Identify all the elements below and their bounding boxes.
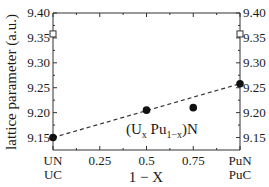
data-point-square xyxy=(50,31,56,37)
x-tick-label: 0.25 xyxy=(88,153,111,168)
data-point-square xyxy=(237,31,243,37)
axis-tick-labels: 9.159.159.209.209.259.259.309.309.359.35… xyxy=(27,5,266,182)
y-tick-label-right: 9.40 xyxy=(243,5,266,20)
x-tick-label: 0.5 xyxy=(138,153,154,168)
x-tick-label: PuC xyxy=(229,167,251,182)
compound-annotation: (Ux Pu1−x)N xyxy=(126,121,198,140)
y-tick-label-left: 9.30 xyxy=(27,55,50,70)
lattice-parameter-chart: lattice parameter (a.u.) 9.159.159.209.2… xyxy=(0,0,269,187)
x-tick-label: UC xyxy=(44,167,62,182)
x-tick-label: UN xyxy=(44,153,63,168)
data-point-circle xyxy=(49,134,57,142)
data-point-circle xyxy=(236,80,244,88)
data-point-circle xyxy=(143,106,151,114)
y-tick-label-left: 9.25 xyxy=(27,80,50,95)
y-tick-label-right: 9.15 xyxy=(243,130,266,145)
y-tick-label-left: 9.40 xyxy=(27,5,50,20)
y-axis-label: lattice parameter (a.u.) xyxy=(3,14,20,150)
y-tick-label-right: 9.35 xyxy=(243,30,266,45)
y-tick-label-left: 9.20 xyxy=(27,105,50,120)
x-tick-label: PuN xyxy=(228,153,252,168)
x-axis-label: 1 − X xyxy=(129,169,163,185)
y-tick-label-right: 9.25 xyxy=(243,80,266,95)
data-point-circle xyxy=(189,104,197,112)
y-tick-label-right: 9.20 xyxy=(243,105,266,120)
x-tick-label: 0.75 xyxy=(182,153,205,168)
y-tick-label-left: 9.15 xyxy=(27,130,50,145)
y-tick-label-left: 9.35 xyxy=(27,30,50,45)
y-tick-label-right: 9.30 xyxy=(243,55,266,70)
